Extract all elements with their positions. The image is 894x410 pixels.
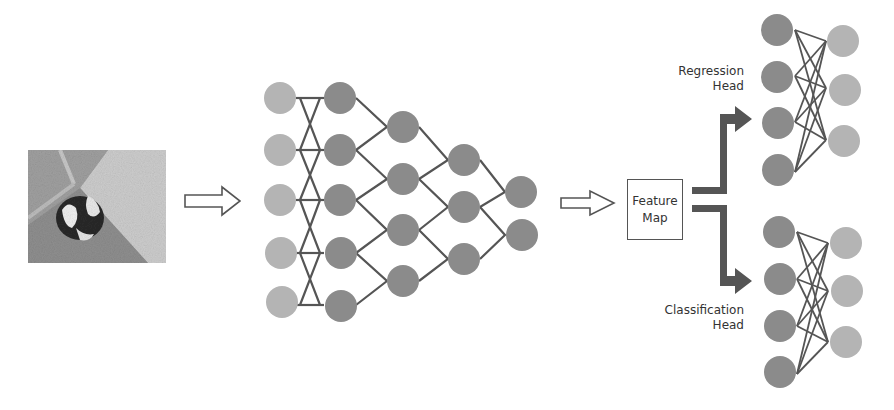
- branch-arrows: [692, 106, 752, 294]
- backbone-layer-2: [324, 82, 357, 322]
- detection-architecture-diagram: Feature Map Regression Head Classificati…: [0, 0, 894, 410]
- regression-head-output-layer: [827, 25, 861, 157]
- regression-head-input-layer: [761, 14, 794, 186]
- classification-head-label-line1: Classification: [650, 303, 744, 318]
- backbone-layer-1: [264, 82, 298, 318]
- regression-head-connections: [795, 30, 826, 172]
- network-graphic: [0, 0, 894, 410]
- backbone-layer-5: [505, 176, 538, 251]
- flow-arrow-icon: [561, 191, 614, 215]
- backbone-layer-4: [448, 144, 480, 275]
- classification-head-connections: [797, 232, 828, 374]
- feature-map-label-line1: Feature: [632, 193, 677, 210]
- regression-head-label: Regression Head: [672, 64, 744, 94]
- classification-head-input-layer: [763, 216, 796, 388]
- backbone-layer-3: [387, 111, 419, 297]
- regression-head-label-line1: Regression: [672, 64, 744, 79]
- classification-branch-arrow-icon: [692, 205, 752, 294]
- classification-head-label: Classification Head: [650, 303, 744, 333]
- feature-map-label-line2: Map: [632, 210, 677, 227]
- feature-map-box: Feature Map: [627, 179, 683, 240]
- regression-branch-arrow-icon: [692, 106, 752, 194]
- classification-head-label-line2: Head: [650, 318, 744, 333]
- flow-arrow-icon: [185, 187, 240, 215]
- regression-head-label-line2: Head: [672, 79, 744, 94]
- classification-head-output-layer: [830, 227, 863, 358]
